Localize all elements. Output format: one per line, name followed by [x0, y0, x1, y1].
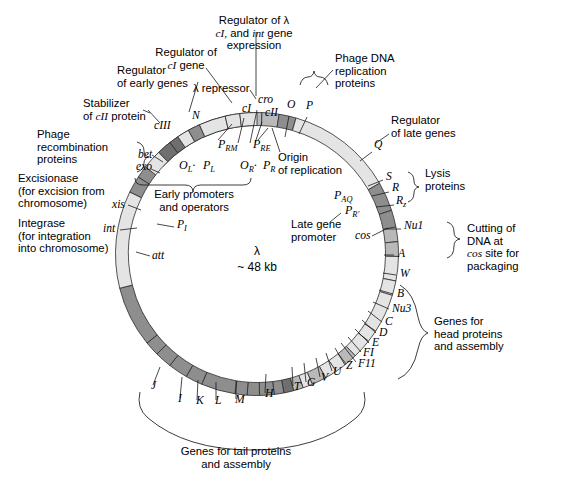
- gene-label-N: N: [191, 109, 201, 122]
- callout-genes-for-tail-proteins: Genes for tail proteinsand assembly: [181, 445, 292, 470]
- promoter-label-PRp: PR′: [344, 203, 359, 219]
- callout-lysis-proteins: Lysisproteins: [425, 167, 466, 192]
- gene-label-xis: xis: [111, 198, 125, 211]
- genome-segment-H: [202, 372, 237, 393]
- lead-origin: [272, 128, 280, 152]
- callout-early-promoters-and-operators: Early promotersand operators: [154, 188, 234, 213]
- gene-labels-group: cIcIIcroOPNcIIIbetexoxisintPIattQSRRzcos…: [103, 93, 423, 407]
- gene-label-FII: F11: [357, 357, 376, 370]
- gene-label-P: P: [305, 99, 313, 112]
- center-label-group: λ ~ 48 kb: [237, 244, 277, 274]
- promoter-label-PRE: PRE: [252, 137, 271, 153]
- callout-phage-recombination-proteins: Phagerecombinationproteins: [37, 128, 108, 165]
- promoter-label-OL: OL·: [179, 158, 195, 174]
- gene-label-A: A: [397, 247, 406, 260]
- gene-label-Z: Z: [346, 359, 353, 372]
- gene-label-att: att: [152, 249, 165, 262]
- gene-label-PI: PI: [176, 218, 188, 233]
- lambda-genome-figure: cIcIIcroOPNcIIIbetexoxisintPIattQSRRzcos…: [0, 0, 563, 487]
- gene-label-cII: cII: [265, 106, 279, 119]
- gene-label-R: R: [391, 181, 399, 194]
- callout-labels-group: Regulator of λcI, and int geneexpression…: [18, 14, 519, 470]
- gene-label-K: K: [195, 394, 205, 407]
- gene-label-Nu1: Nu1: [403, 219, 423, 232]
- gene-label-exo: exo: [136, 160, 152, 173]
- gene-label-cI: cI: [242, 102, 252, 115]
- gene-label-J: J: [151, 379, 157, 392]
- genome-map-svg: cIcIIcroOPNcIIIbetexoxisintPIattQSRRzcos…: [0, 0, 563, 487]
- callout-genes-for-head-proteins: Genes forhead proteinsand assembly: [434, 315, 504, 352]
- gene-label-L: L: [214, 394, 221, 407]
- gene-label-W: W: [400, 267, 411, 280]
- callout-lambda-repressor: λ repressor: [193, 82, 250, 94]
- promoter-label-OR: OR·: [240, 158, 257, 174]
- center-lambda-symbol: λ: [254, 244, 260, 258]
- callout-excisionase: Excisionase(for excision fromchromosome): [18, 172, 105, 209]
- gene-label-Rz: Rz: [395, 194, 407, 209]
- gene-label-Q: Q: [374, 138, 383, 151]
- gene-label-B: B: [397, 287, 404, 300]
- lead-att: [136, 252, 150, 256]
- gene-label-cro: cro: [258, 93, 273, 106]
- genome-segment-pre_N: [225, 114, 241, 129]
- lead-PI: [157, 224, 174, 227]
- brace-lysis: [408, 172, 419, 202]
- brace-phage-dna-replication: [300, 71, 328, 85]
- callout-late-gene-promoter: Late genepromoter: [291, 218, 341, 243]
- gene-label-U: U: [333, 365, 342, 378]
- callout-origin-of-replication: Originof replication: [278, 151, 342, 176]
- callout-regulator-of-late-genes: Regulatorof late genes: [391, 114, 456, 139]
- callout-stabilizer-of-cII-protein: Stabilizerof cII protein: [83, 97, 146, 122]
- gene-label-H: H: [264, 387, 274, 400]
- callout-cutting-of-dna-at-cos-site: Cutting ofDNA atcos site forpackaging: [467, 222, 519, 272]
- promoter-label-PL: PL: [202, 158, 215, 174]
- promoter-label-PRM: PRM: [217, 137, 238, 153]
- callout-regulator-lambda-cI-int: Regulator of λcI, and int geneexpression: [216, 14, 293, 51]
- genome-segment-S: [379, 210, 396, 229]
- callout-phage-dna-replication-proteins: Phage DNAreplicationproteins: [335, 52, 395, 89]
- genome-segment-J: [120, 285, 157, 343]
- lead-Qtick: [360, 152, 372, 161]
- lead-repressor: [250, 90, 256, 99]
- gene-label-M: M: [234, 393, 246, 406]
- gene-label-I: I: [177, 392, 183, 405]
- gene-label-int: int: [103, 222, 116, 235]
- gene-label-cIII: cIII: [154, 119, 172, 132]
- promoter-label-PAQ: PAQ: [333, 188, 353, 204]
- callout-integrase: Integrase(for integrationinto chromosome…: [18, 217, 109, 254]
- promoter-label-PR: PR: [262, 158, 275, 174]
- brace-cos-cutting: [447, 222, 460, 258]
- gene-label-cos: cos: [355, 229, 371, 242]
- gene-label-G: G: [307, 376, 316, 389]
- center-genome-size: ~ 48 kb: [237, 260, 277, 274]
- gene-label-O: O: [287, 98, 296, 111]
- gene-label-D: D: [378, 326, 388, 339]
- genome-segment-G: [247, 382, 259, 395]
- genome-segment-Q: [368, 183, 391, 214]
- gene-label-Nu3: Nu3: [391, 302, 412, 315]
- genome-segment-Rz: [385, 242, 398, 257]
- genome-segment-cos_region: [383, 256, 398, 281]
- brace-tail-genes: [139, 392, 365, 450]
